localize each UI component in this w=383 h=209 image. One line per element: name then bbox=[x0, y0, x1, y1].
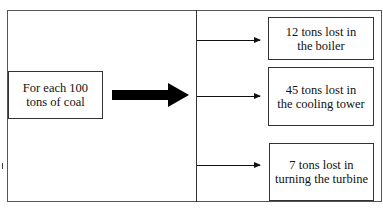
divider-line bbox=[196, 10, 197, 202]
cooling-line-1: 45 tons lost in bbox=[277, 83, 364, 97]
boiler-line-2: the boiler bbox=[286, 39, 357, 53]
boiler-loss-box: 12 tons lost in the boiler bbox=[268, 17, 374, 60]
turbine-line-2: turning the turbine bbox=[275, 172, 368, 186]
boiler-line-1: 12 tons lost in bbox=[286, 25, 357, 39]
edge-mark bbox=[2, 163, 3, 169]
source-line-2: tons of coal bbox=[23, 95, 88, 109]
cooling-tower-loss-box: 45 tons lost in the cooling tower bbox=[268, 67, 374, 126]
turbine-line-1: 7 tons lost in bbox=[275, 158, 368, 172]
arrow-to-boiler-icon bbox=[197, 40, 260, 41]
source-box: For each 100 tons of coal bbox=[8, 71, 103, 119]
arrow-to-cooling-tower-icon bbox=[197, 96, 260, 97]
source-line-1: For each 100 bbox=[23, 81, 88, 95]
turbine-loss-box: 7 tons lost in turning the turbine bbox=[269, 143, 374, 201]
arrow-to-turbine-icon bbox=[197, 165, 260, 166]
cooling-line-2: the cooling tower bbox=[277, 97, 364, 111]
main-arrow-icon bbox=[112, 83, 189, 107]
